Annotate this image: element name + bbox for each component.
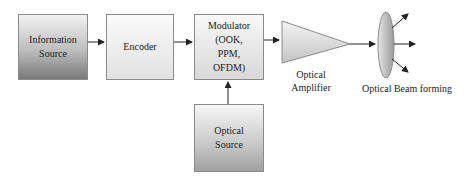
modulator-block: Modulator (OOK, PPM, OFDM) — [194, 14, 264, 80]
encoder-label: Encoder — [123, 40, 156, 54]
information-source-label-2: Source — [29, 47, 77, 61]
information-source-block: Information Source — [18, 14, 88, 80]
optical-source-label-1: Optical — [214, 124, 243, 138]
lens-icon — [378, 12, 394, 78]
optical-amplifier-label-2: Amplifier — [276, 81, 346, 94]
modulator-label-4: OFDM) — [208, 61, 250, 75]
modulator-label-2: (OOK, — [208, 33, 250, 47]
modulator-label-1: Modulator — [208, 19, 250, 33]
optical-amplifier-label-1: Optical — [276, 68, 346, 81]
optical-amplifier-label: Optical Amplifier — [276, 68, 346, 94]
encoder-block: Encoder — [106, 14, 174, 80]
optical-source-block: Optical Source — [194, 104, 264, 172]
beam-forming-label: Optical Beam forming — [352, 82, 462, 95]
optical-source-label-2: Source — [214, 138, 243, 152]
optical-amplifier-triangle — [282, 21, 350, 63]
information-source-label-1: Information — [29, 33, 77, 47]
modulator-label-3: PPM, — [208, 47, 250, 61]
beam-arrows — [392, 14, 415, 72]
